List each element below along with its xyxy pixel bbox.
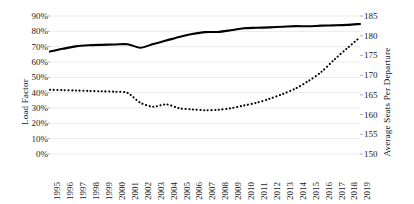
series-load-factor-line — [50, 24, 360, 52]
series-average-seats-line — [50, 37, 360, 110]
gridlines — [50, 16, 360, 154]
tick-marks — [47, 16, 363, 154]
chart-container: Load Factor Average Seats Per Departure … — [0, 0, 414, 204]
plot-area — [0, 0, 414, 204]
